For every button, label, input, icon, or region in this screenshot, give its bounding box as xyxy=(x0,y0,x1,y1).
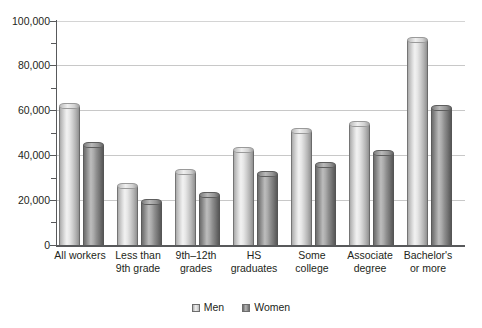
y-axis-label-100000: 100,000 xyxy=(2,16,50,27)
gridline-100000 xyxy=(57,21,465,22)
y-axis-label-80000: 80,000 xyxy=(2,60,50,71)
x-axis-line xyxy=(56,245,465,247)
cat-line-1: Bachelor's xyxy=(383,249,473,262)
bar-men-all-workers xyxy=(59,106,80,245)
x-axis-label-bachelors-or-more: Bachelor's or more xyxy=(383,249,473,274)
bar-cap xyxy=(315,162,336,168)
bar-cap xyxy=(83,142,104,148)
bar-women-all-workers xyxy=(83,145,104,245)
legend-item-women: Women xyxy=(242,302,290,313)
bar-cap xyxy=(199,192,220,198)
bar-women-hs-graduates xyxy=(257,174,278,245)
legend-swatch-women-icon xyxy=(242,304,250,312)
cat-line-2: or more xyxy=(383,262,473,275)
bar-cap xyxy=(117,183,138,189)
plot-area xyxy=(57,21,465,245)
bar-men-hs-graduates xyxy=(233,150,254,245)
y-axis-labels: 100,000 80,000 60,000 40,000 20,000 0 xyxy=(0,0,50,328)
bar-women-bachelors-or-more xyxy=(431,108,452,245)
bar-men-less-than-9th-grade xyxy=(117,186,138,245)
bar-women-less-than-9th-grade xyxy=(141,202,162,245)
bar-cap xyxy=(175,169,196,175)
bar-cap xyxy=(59,103,80,109)
bar-cap xyxy=(349,121,370,127)
bar-cap xyxy=(257,171,278,177)
bar-cap xyxy=(373,150,394,156)
legend-swatch-men-icon xyxy=(192,304,200,312)
bar-women-associate-degree xyxy=(373,153,394,245)
y-axis-label-40000: 40,000 xyxy=(2,150,50,161)
bar-cap xyxy=(431,105,452,111)
bar-cap xyxy=(407,37,428,43)
bar-cap xyxy=(233,147,254,153)
bar-men-some-college xyxy=(291,131,312,245)
legend-label-men: Men xyxy=(204,302,224,313)
bar-women-some-college xyxy=(315,165,336,245)
bar-women-9th-12th-grades xyxy=(199,195,220,245)
bar-men-associate-degree xyxy=(349,124,370,245)
gridline-60000 xyxy=(57,110,465,111)
bar-cap xyxy=(141,199,162,205)
bar-cap xyxy=(291,128,312,134)
bar-men-bachelors-or-more xyxy=(407,40,428,245)
y-axis-label-60000: 60,000 xyxy=(2,105,50,116)
gridline-80000 xyxy=(57,65,465,66)
legend-label-women: Women xyxy=(254,302,290,313)
y-axis-label-20000: 20,000 xyxy=(2,195,50,206)
legend-item-men: Men xyxy=(192,302,224,313)
chart-legend: Men Women xyxy=(0,302,482,313)
gridline-40000 xyxy=(57,155,465,156)
bar-men-9th-12th-grades xyxy=(175,172,196,245)
bar-chart: 100,000 80,000 60,000 40,000 20,000 0 xyxy=(0,0,482,328)
